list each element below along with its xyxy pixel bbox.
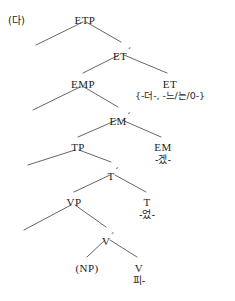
tree-node-vp: VP xyxy=(67,196,82,208)
tree-node-etp: ETP xyxy=(75,14,96,26)
node-label-tbar: T´ xyxy=(108,166,119,182)
node-label-np: (NP) xyxy=(76,262,99,274)
tree-node-v: V피- xyxy=(133,262,146,287)
tree-node-etbar: ET´ xyxy=(113,46,131,62)
node-label-vp: VP xyxy=(67,196,82,208)
node-label-et: ET xyxy=(135,78,205,90)
node-label-vbar: V´ xyxy=(102,231,114,247)
branch-tp-spec xyxy=(28,150,75,165)
tree-node-embar: EM´ xyxy=(109,111,130,127)
bar-level-mark: ´ xyxy=(115,166,118,177)
node-label-em: EM xyxy=(154,141,171,153)
tree-node-tp: TP xyxy=(71,141,85,153)
syntactic-tree-figure: (다) ETPET´EMPET{-더-, -느/는/0-}EM´TPEM-겠-T… xyxy=(0,0,235,301)
tree-node-tbar: T´ xyxy=(108,166,119,182)
branch-tbar-vp xyxy=(74,175,110,192)
node-label-tp: TP xyxy=(71,141,85,153)
tree-node-vbar: V´ xyxy=(102,231,114,247)
morpheme-em: -겠- xyxy=(154,154,171,165)
tree-node-t: T-었- xyxy=(139,196,155,221)
bar-level-mark: ´ xyxy=(111,231,114,242)
branch-emp-spec xyxy=(33,87,80,110)
branch-tbar-t xyxy=(115,175,146,192)
tree-node-emp: EMP xyxy=(71,78,95,90)
branch-vp-spec xyxy=(24,205,71,230)
node-label-v: V xyxy=(133,262,146,274)
bar-level-mark: ´ xyxy=(128,46,131,57)
tree-node-np: (NP) xyxy=(76,262,99,274)
tree-node-et: ET{-더-, -느/는/0-} xyxy=(135,78,205,102)
node-label-etp: ETP xyxy=(75,14,96,26)
bar-level-mark: ´ xyxy=(127,111,130,122)
tree-node-em: EM-겠- xyxy=(154,141,171,166)
example-number-label: (다) xyxy=(8,12,25,27)
node-label-embar: EM´ xyxy=(109,111,130,127)
morpheme-et: {-더-, -느/는/0-} xyxy=(135,91,205,102)
morpheme-v: 피- xyxy=(133,275,146,286)
node-label-t: T xyxy=(139,196,155,208)
node-label-etbar: ET´ xyxy=(113,46,131,62)
node-label-emp: EMP xyxy=(71,78,95,90)
morpheme-t: -었- xyxy=(139,209,155,220)
